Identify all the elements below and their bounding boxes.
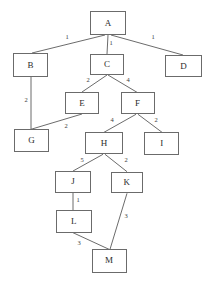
edge-weight-h-k: 2 (124, 157, 127, 164)
graph-node-j[interactable]: J (55, 171, 91, 193)
edge-weight-l-m: 3 (77, 240, 80, 247)
graph-diagram: ABCDEFGHIJKLM 11124224252133 (0, 0, 215, 286)
graph-node-label: B (27, 61, 33, 70)
graph-node-label: G (28, 136, 35, 145)
graph-node-label: A (105, 19, 112, 28)
graph-node-label: M (105, 256, 113, 265)
graph-node-a[interactable]: A (90, 11, 126, 35)
graph-edge-h-j (73, 154, 103, 171)
graph-node-label: I (160, 139, 163, 148)
graph-node-e[interactable]: E (65, 92, 99, 114)
graph-edge-a-d (111, 35, 183, 55)
edge-weight-c-e: 2 (86, 77, 89, 84)
graph-node-label: J (71, 177, 75, 186)
graph-node-label: H (101, 139, 108, 148)
graph-node-b[interactable]: B (13, 53, 48, 77)
graph-node-h[interactable]: H (85, 132, 123, 154)
edge-weight-a-c: 1 (109, 40, 112, 47)
graph-node-label: F (135, 99, 140, 108)
edge-weight-f-i: 2 (154, 117, 157, 124)
graph-node-label: L (71, 217, 77, 226)
graph-node-label: E (79, 99, 85, 108)
edge-weight-a-b: 1 (65, 34, 68, 41)
graph-node-label: D (180, 62, 187, 71)
graph-edge-f-i (138, 114, 162, 132)
edge-weight-b-g: 2 (24, 97, 27, 104)
graph-edge-f-h (104, 114, 136, 132)
graph-node-i[interactable]: I (144, 132, 179, 155)
graph-edge-e-g (31, 114, 82, 129)
graph-node-g[interactable]: G (14, 129, 49, 152)
edge-weight-c-f: 4 (126, 77, 129, 84)
graph-node-label: C (104, 60, 110, 69)
graph-edge-k-m (110, 193, 127, 249)
edge-weight-h-j: 5 (80, 157, 83, 164)
edge-weight-e-g: 2 (64, 123, 67, 130)
graph-node-m[interactable]: M (92, 249, 127, 272)
edge-weight-a-d: 1 (151, 34, 154, 41)
edge-weight-f-h: 4 (110, 117, 113, 124)
graph-node-c[interactable]: C (90, 54, 124, 75)
edge-weight-k-m: 3 (124, 213, 127, 220)
graph-edge-a-c (107, 35, 108, 54)
edge-weight-j-l: 1 (76, 197, 79, 204)
graph-node-l[interactable]: L (56, 210, 92, 233)
graph-node-k[interactable]: K (111, 172, 143, 194)
graph-edge-c-f (108, 75, 137, 92)
graph-node-label: K (123, 178, 130, 187)
graph-node-f[interactable]: F (121, 92, 155, 114)
graph-node-d[interactable]: D (165, 55, 202, 77)
